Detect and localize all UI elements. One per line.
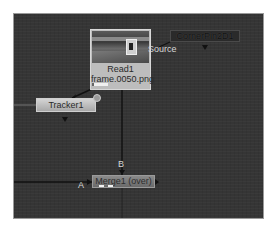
tracker-mask-input-icon[interactable] — [93, 94, 101, 102]
source-label: Source — [148, 44, 177, 54]
a-input-label: A — [78, 180, 84, 190]
read-node-label: Read1 frame.0050.png — [91, 64, 150, 84]
read-frame-indicator — [94, 83, 108, 86]
read-node[interactable]: Read1 frame.0050.png — [90, 29, 151, 90]
tracker-node-name: Tracker1 — [48, 100, 83, 110]
merge-indicator-marks — [99, 185, 119, 187]
cornerpin-node-name: CornerPin2D1 — [176, 31, 233, 41]
cornerpin-node[interactable]: CornerPin2D1 — [170, 30, 240, 42]
tracker-node[interactable]: Tracker1 — [36, 98, 96, 112]
node-graph-canvas[interactable]: Read1 frame.0050.png Source CornerPin2D1… — [14, 14, 263, 218]
read-node-name: Read1 — [91, 64, 150, 74]
merge-node[interactable]: Merge1 (over) — [92, 175, 155, 188]
b-input-label: B — [118, 159, 124, 169]
read-thumbnail — [92, 31, 149, 63]
